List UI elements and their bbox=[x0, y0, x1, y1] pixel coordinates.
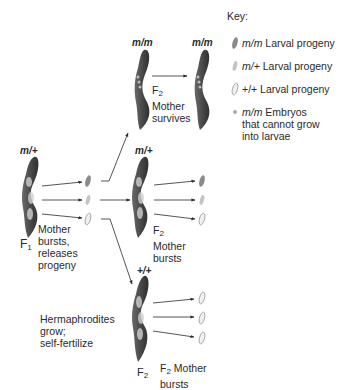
key-title: Key: bbox=[227, 10, 248, 22]
f2-pp-caption: F2 Mother bursts bbox=[160, 362, 206, 390]
mm-larva-icon bbox=[84, 175, 92, 188]
light-larva-icon bbox=[232, 61, 238, 72]
f2-mp-genotype: m/+ bbox=[135, 145, 153, 156]
f2-connectors bbox=[100, 133, 132, 284]
f1-progeny-arrows bbox=[42, 182, 82, 218]
outlined-larva-icon bbox=[231, 83, 239, 96]
f2-pp-progeny-arrows bbox=[153, 299, 194, 337]
f3-mm-genotype: m/m bbox=[192, 37, 213, 48]
f2-pp-genotype: +/+ bbox=[137, 265, 151, 276]
f2-pp-progeny-larvae bbox=[198, 292, 206, 345]
mp-larva-icon bbox=[85, 195, 91, 206]
key-item-pp-larva: +/+ Larval progeny bbox=[242, 83, 338, 95]
f1-genotype: m/+ bbox=[20, 145, 38, 156]
f1-caption: Mother bursts, releases progeny bbox=[38, 223, 78, 271]
key-item-mp-larva: m/+ Larval progeny bbox=[242, 60, 338, 72]
f2-mp-progeny-larvae bbox=[198, 175, 206, 226]
f2-mm-caption: F2 Mother survives bbox=[152, 84, 191, 124]
f2-mp-progeny-arrows bbox=[154, 181, 195, 219]
f2-pp-mother-worm-icon bbox=[132, 276, 149, 362]
dark-larva-icon bbox=[231, 37, 239, 50]
f2-mp-mother-worm-icon bbox=[132, 157, 149, 238]
pp-larva-icon bbox=[84, 213, 92, 226]
f1-progeny-larvae bbox=[84, 175, 92, 226]
embryo-dot-icon bbox=[233, 110, 237, 114]
key-item-mm-larva: m/m Larval progeny bbox=[242, 37, 338, 49]
f1-generation-label: F1 bbox=[20, 238, 32, 254]
key-item-mm-embryo: m/m Embryos that cannot grow into larvae bbox=[242, 106, 322, 142]
f2-mm-genotype: m/m bbox=[132, 37, 153, 48]
f1-mother-worm-icon bbox=[22, 157, 39, 238]
hermaphrodites-note: Hermaphrodites grow; self-fertilize bbox=[40, 313, 115, 349]
f3-mm-worm-icon bbox=[195, 50, 210, 130]
f2-pp-generation-label: F2 bbox=[137, 366, 148, 382]
f2-mp-caption: F2 Mother bursts bbox=[153, 224, 186, 264]
f2-mm-mother-worm-icon bbox=[135, 50, 150, 130]
key-icons bbox=[231, 37, 239, 114]
